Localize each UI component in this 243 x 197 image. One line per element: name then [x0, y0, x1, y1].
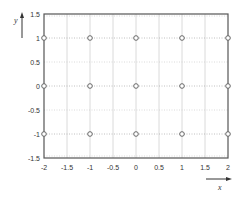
y-tick-label: 0 [36, 83, 40, 90]
x-tick-label: -1 [87, 164, 93, 171]
x-tick-label: -1.5 [61, 164, 73, 171]
x-tick-label: 1.5 [200, 164, 210, 171]
y-axis-arrow [20, 12, 24, 38]
y-axis-label: y [13, 16, 18, 25]
x-tick-label: 0.5 [154, 164, 164, 171]
data-point-marker [226, 84, 231, 89]
data-point-marker [42, 132, 47, 137]
x-tick-label: 1 [180, 164, 184, 171]
data-point-marker [134, 84, 139, 89]
data-point-marker [88, 36, 93, 41]
x-axis-label: x [217, 183, 222, 192]
data-point-marker [42, 36, 47, 41]
y-axis-ticks: 1.510.50-0.5-1-1.5 [28, 11, 40, 162]
data-point-marker [88, 84, 93, 89]
x-tick-label: -2 [41, 164, 47, 171]
x-tick-label: 0 [134, 164, 138, 171]
data-point-marker [180, 84, 185, 89]
data-point-marker [134, 132, 139, 137]
data-point-marker [88, 132, 93, 137]
y-tick-label: 0.5 [30, 59, 40, 66]
data-point-marker [42, 84, 47, 89]
data-point-marker [226, 132, 231, 137]
data-point-marker [134, 36, 139, 41]
data-point-marker [226, 36, 231, 41]
x-tick-label: -0.5 [107, 164, 119, 171]
y-tick-label: -1.5 [28, 155, 40, 162]
x-axis-ticks: -2-1.5-1-0.500.511.52 [41, 164, 230, 171]
data-point-marker [180, 36, 185, 41]
y-tick-label: -0.5 [28, 107, 40, 114]
x-axis-arrow [206, 177, 232, 181]
y-tick-label: 1.5 [30, 11, 40, 18]
y-tick-label: 1 [36, 35, 40, 42]
scatter-chart: -2-1.5-1-0.500.511.52 1.510.50-0.5-1-1.5… [0, 0, 243, 197]
x-tick-label: 2 [226, 164, 230, 171]
y-tick-label: -1 [34, 131, 40, 138]
data-point-marker [180, 132, 185, 137]
